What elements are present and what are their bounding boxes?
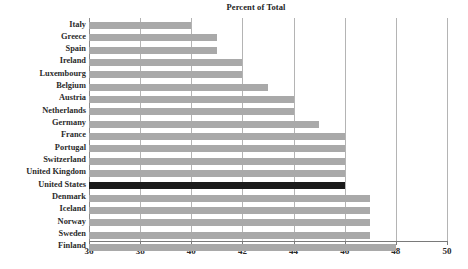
- bar-row: Iceland: [0, 204, 468, 216]
- bar-row: Denmark: [0, 192, 468, 204]
- bar: [89, 47, 217, 54]
- bar: [89, 96, 294, 103]
- bar-row: Ireland: [0, 56, 468, 68]
- bar-row: France: [0, 130, 468, 142]
- category-label: United States: [0, 180, 86, 189]
- bar-row: United Kingdom: [0, 167, 468, 179]
- category-label: Austria: [0, 93, 86, 102]
- bar-row: Portugal: [0, 143, 468, 155]
- bar-row: Italy: [0, 20, 468, 32]
- bar-row: Norway: [0, 217, 468, 229]
- bar: [89, 71, 242, 78]
- category-label: Sweden: [0, 229, 86, 238]
- chart-title: Percent of Total: [0, 2, 468, 12]
- bar: [89, 108, 294, 115]
- bar: [89, 158, 345, 165]
- category-label: Portugal: [0, 143, 86, 152]
- bar: [89, 244, 396, 251]
- category-label: Denmark: [0, 192, 86, 201]
- bar-row: Belgium: [0, 81, 468, 93]
- category-label: Ireland: [0, 56, 86, 65]
- bar: [89, 22, 191, 29]
- bar: [89, 34, 217, 41]
- category-label: Netherlands: [0, 106, 86, 115]
- bar: [89, 207, 370, 214]
- bar-row: Switzerland: [0, 155, 468, 167]
- bar-row: Sweden: [0, 229, 468, 241]
- category-label: Greece: [0, 32, 86, 41]
- chart-figure: Percent of Total 3638404244464850 ItalyG…: [0, 0, 468, 269]
- category-label: United Kingdom: [0, 167, 86, 176]
- category-label: Iceland: [0, 204, 86, 213]
- bar: [89, 145, 345, 152]
- bar: [89, 195, 370, 202]
- category-label: Spain: [0, 44, 86, 53]
- bar: [89, 182, 345, 189]
- category-label: Belgium: [0, 81, 86, 90]
- category-label: Germany: [0, 118, 86, 127]
- bar-row: United States: [0, 180, 468, 192]
- category-label: Italy: [0, 20, 86, 29]
- bar: [89, 121, 319, 128]
- bar-row: Spain: [0, 44, 468, 56]
- bar-row: Luxembourg: [0, 69, 468, 81]
- bar-row: Greece: [0, 32, 468, 44]
- category-label: France: [0, 130, 86, 139]
- bar: [89, 133, 345, 140]
- bar-row: Germany: [0, 118, 468, 130]
- bar: [89, 59, 242, 66]
- category-label: Norway: [0, 217, 86, 226]
- bar-row: Finland: [0, 241, 468, 253]
- category-label: Luxembourg: [0, 69, 86, 78]
- bar: [89, 219, 370, 226]
- bar: [89, 170, 345, 177]
- category-label: Switzerland: [0, 155, 86, 164]
- category-label: Finland: [0, 241, 86, 250]
- bar-row: Austria: [0, 93, 468, 105]
- bar: [89, 84, 268, 91]
- bar-row: Netherlands: [0, 106, 468, 118]
- bar: [89, 232, 370, 239]
